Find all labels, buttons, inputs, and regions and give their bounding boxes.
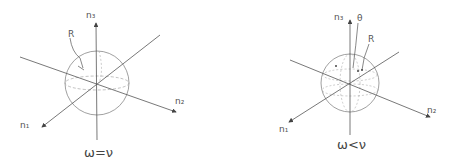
n2-label: n₂ [175, 96, 185, 106]
caption: ω=ν [84, 145, 113, 160]
n2-axis [20, 57, 176, 112]
figure-omega-equals-nu: n₃ R n₂ n₁ ω=ν [20, 10, 185, 160]
theta-label: θ [357, 13, 363, 23]
n1-label: n₁ [20, 120, 30, 130]
diagram-canvas: n₃ R n₂ n₁ ω=ν n₃ θ R n₂ n₁ ω<ν [0, 0, 449, 164]
n3-label: n₃ [86, 10, 96, 20]
n2-label: n₂ [427, 105, 437, 115]
n3-axis [96, 23, 97, 140]
theta-pointer [353, 23, 358, 68]
R-label: R [368, 34, 374, 44]
equator [65, 76, 129, 90]
R-label: R [68, 29, 74, 39]
n1-axis [42, 35, 160, 127]
n1-label: n₁ [279, 124, 289, 134]
n3-label: n₃ [334, 12, 344, 22]
figure-omega-less-than-nu: n₃ θ R n₂ n₁ ω<ν [279, 12, 437, 152]
caption: ω<ν [337, 137, 366, 152]
R-pointer [70, 38, 80, 58]
